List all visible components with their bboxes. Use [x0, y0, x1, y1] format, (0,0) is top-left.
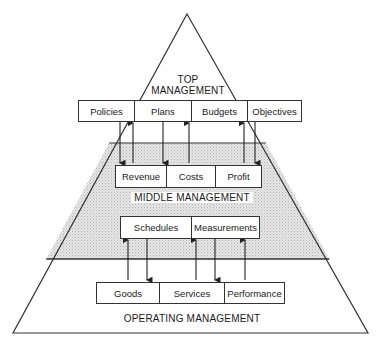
item-performance: Performance	[224, 283, 284, 303]
top-label-line2: MANAGEMENT	[150, 85, 226, 96]
top-management-label: TOP MANAGEMENT	[150, 74, 226, 96]
operating-management-items: Goods Services Performance	[96, 282, 285, 304]
middle-management-label-wrap: MIDDLE MANAGEMENT	[0, 192, 384, 203]
top-management-items: Policies Plans Budgets Objectives	[78, 100, 302, 122]
item-budgets: Budgets	[191, 101, 247, 121]
item-costs: Costs	[166, 166, 215, 187]
top-label-line1: TOP	[150, 74, 226, 85]
item-objectives: Objectives	[247, 101, 301, 121]
item-revenue: Revenue	[116, 166, 166, 187]
middle-management-label: MIDDLE MANAGEMENT	[131, 192, 253, 203]
item-measurements: Measurements	[191, 217, 259, 238]
item-policies: Policies	[79, 101, 134, 121]
item-schedules: Schedules	[121, 217, 191, 238]
item-plans: Plans	[134, 101, 191, 121]
operating-management-label: OPERATING MANAGEMENT	[0, 313, 384, 324]
item-goods: Goods	[97, 283, 159, 303]
item-profit: Profit	[215, 166, 261, 187]
middle-management-controls: Schedules Measurements	[120, 216, 260, 239]
middle-management-results: Revenue Costs Profit	[115, 165, 262, 188]
item-services: Services	[159, 283, 224, 303]
